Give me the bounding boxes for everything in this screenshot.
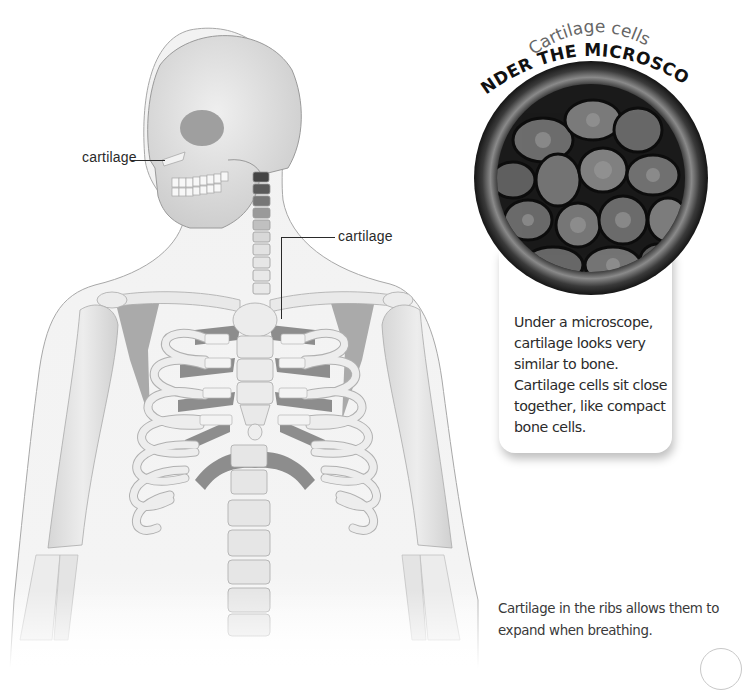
skeleton-drawing (0, 0, 480, 668)
label-nose-cartilage: cartilage (82, 149, 137, 165)
label-sternum-cartilage: cartilage (338, 228, 393, 244)
leader-line-sternum-h (281, 237, 335, 238)
ribs-caption: Cartilage in the ribs allows them to exp… (498, 598, 724, 642)
leader-line-sternum-v (281, 237, 282, 319)
microscope-description: Under a microscope, cartilage looks very… (514, 312, 674, 438)
page-corner-circle (700, 648, 742, 690)
microscope-image (473, 60, 709, 296)
leader-line-nose (131, 160, 165, 161)
skeleton-illustration (0, 0, 480, 668)
